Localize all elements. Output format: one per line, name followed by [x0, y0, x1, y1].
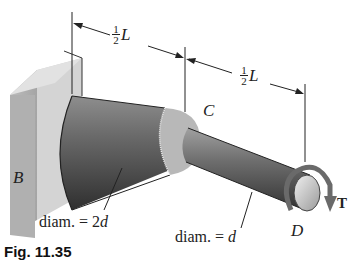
dimension-arrowheads [73, 23, 304, 94]
large-shaft-segment [60, 96, 200, 210]
small-diameter-text: diam. = [175, 228, 228, 245]
point-b-label: B [13, 168, 23, 188]
large-diameter-text: diam. = 2 [39, 213, 100, 230]
large-diameter-var: d [100, 213, 108, 230]
point-c-label: C [203, 101, 214, 121]
torque-label: T [337, 195, 347, 212]
point-d-label: D [291, 221, 303, 241]
figure-caption: Fig. 11.35 [4, 243, 72, 260]
dimension-label-right: 12 L [240, 65, 258, 86]
large-diameter-label: diam. = 2d [39, 213, 108, 231]
small-diameter-label: diam. = d [175, 228, 236, 246]
small-diameter-var: d [228, 228, 236, 245]
dimension-label-left: 12 L [112, 24, 130, 45]
